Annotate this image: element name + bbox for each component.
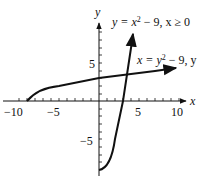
curve-1-label: y = x2 − 9, x ≥ 0 (111, 15, 190, 29)
curve-y-equals-x-squared-minus-9 (99, 34, 133, 170)
y-axis-label: y (94, 5, 101, 19)
x-tick-label: −10 (4, 105, 23, 119)
y-axis (99, 23, 102, 176)
x-tick-label: 10 (171, 105, 183, 119)
curve-2-label: x = y2 − 9, y (136, 53, 197, 67)
x-tick-label: 5 (135, 105, 141, 119)
chart: x y −10 −5 5 10 5 −5 y = x2 − 9, x ≥ 0 x… (0, 0, 214, 177)
curve-x-equals-y-squared-minus-9 (27, 68, 176, 101)
x-axis-label: x (189, 94, 196, 108)
y-tick-label: 5 (89, 57, 95, 71)
y-tick-label: −5 (80, 134, 93, 148)
x-tick-label: −5 (47, 105, 60, 119)
